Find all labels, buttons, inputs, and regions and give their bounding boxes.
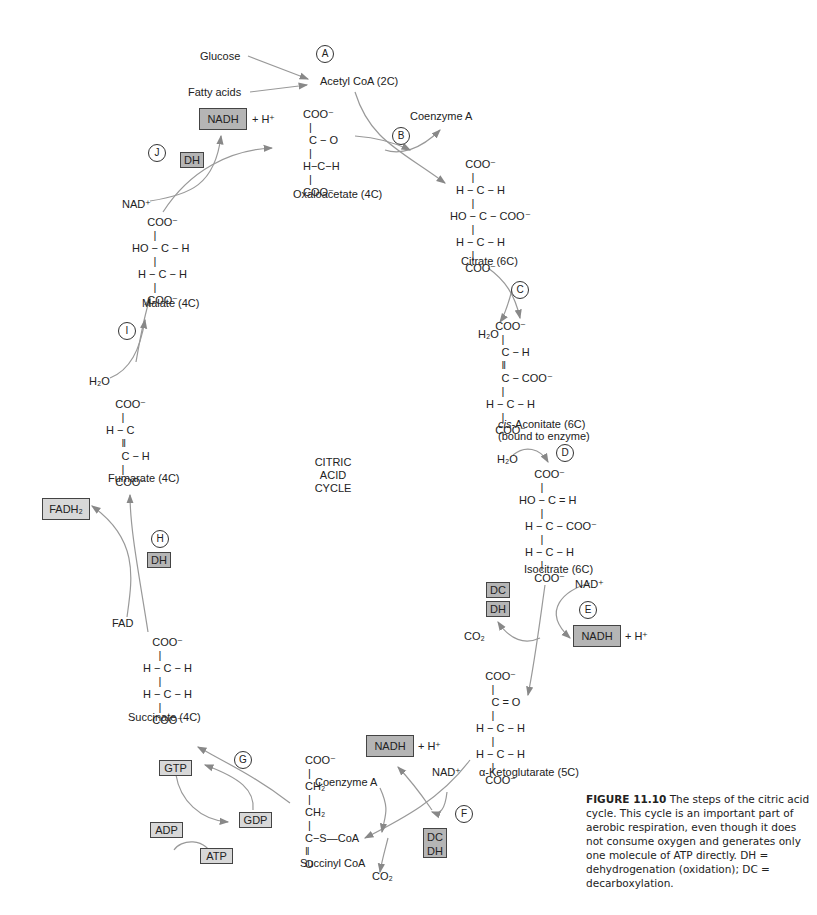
adp-box: ADP [150,822,183,838]
step-b-marker: B [392,127,410,145]
cycle-title-line-2: ACID [308,469,358,482]
fad-label: FAD [112,617,133,630]
water-i-label: H₂O [89,375,110,388]
cis-aconitate-note: (bound to enzyme) [498,430,590,443]
figure-label: FIGURE 11.10 [586,793,666,805]
plus-h-j: + H⁺ [252,113,275,126]
malate-label: Malate (4C) [142,297,199,310]
malate-structure: COO⁻ | HO − C − H | H − C − H | COO⁻ [132,216,189,307]
step-j-marker: J [148,144,166,162]
dc-box-e: DC [486,582,510,598]
citrate-label: Citrate (6C) [461,255,518,268]
co2-e-label: CO₂ [464,630,485,643]
step-h-marker: H [151,530,169,548]
cis-prefix: cis [498,418,511,430]
step-c-marker: C [511,281,529,299]
cycle-title-line-1: CITRIC [308,456,358,469]
acetyl-coa-label: Acetyl CoA (2C) [320,75,398,88]
cycle-title: CITRIC ACID CYCLE [308,456,358,495]
fumarate-label: Fumarate (4C) [108,472,180,485]
dh-text: DH [427,845,443,857]
cis-aconitate-name: -Aconitate (6C) [511,418,585,430]
nadh-box-j: NADH [199,108,247,130]
nadh-box-e: NADH [573,625,621,647]
gdp-box: GDP [239,812,272,828]
glucose-label: Glucose [200,50,240,63]
plus-h-f: + H⁺ [418,740,441,753]
caption-text: The steps of the citric acid cycle. This… [586,793,809,889]
nad-e-label: NAD⁺ [575,578,604,591]
alpha-ketoglutarate-label: α-Ketoglutarate (5C) [479,766,579,779]
dc-text: DC [427,831,443,843]
gtp-box: GTP [159,760,192,776]
step-e-marker: E [579,601,597,619]
figure-caption: FIGURE 11.10 The steps of the citric aci… [586,792,816,890]
coenzyme-a-released-label: Coenzyme A [410,110,472,123]
succinyl-coa-label: Succinyl CoA [300,857,365,870]
dh-box-e: DH [486,601,510,617]
fatty-acids-label: Fatty acids [188,86,241,99]
co2-f-label: CO₂ [372,870,393,883]
step-f-marker: F [455,805,473,823]
nadh-box-f: NADH [366,735,414,757]
nad-f-label: NAD⁺ [432,766,461,779]
water-d-label: H₂O [497,453,518,466]
step-g-marker: G [234,751,252,769]
oxaloacetate-label: Oxaloacetate (4C) [293,188,382,201]
cycle-title-line-3: CYCLE [308,482,358,495]
dh-box-h: DH [147,552,171,568]
fadh2-box: FADH₂ [42,498,90,520]
oxaloacetate-structure: COO⁻ | C − O | H−C−H | COO⁻ [303,108,340,199]
succinate-label: Succinate (4C) [128,711,201,724]
plus-h-e: + H⁺ [625,630,648,643]
nad-j-label: NAD⁺ [122,198,151,211]
dc-dh-box-f: DCDH [423,828,447,858]
atp-box: ATP [200,848,233,864]
succinyl-coa-structure: COO⁻ | CH₂ | CH₂ | C−S—CoA ‖ O [305,754,359,871]
dh-box-j: DH [180,152,204,168]
isocitrate-label: Isocitrate (6C) [524,563,593,576]
step-d-marker: D [556,444,574,462]
step-i-marker: I [118,322,136,340]
step-a-marker: A [316,45,334,63]
